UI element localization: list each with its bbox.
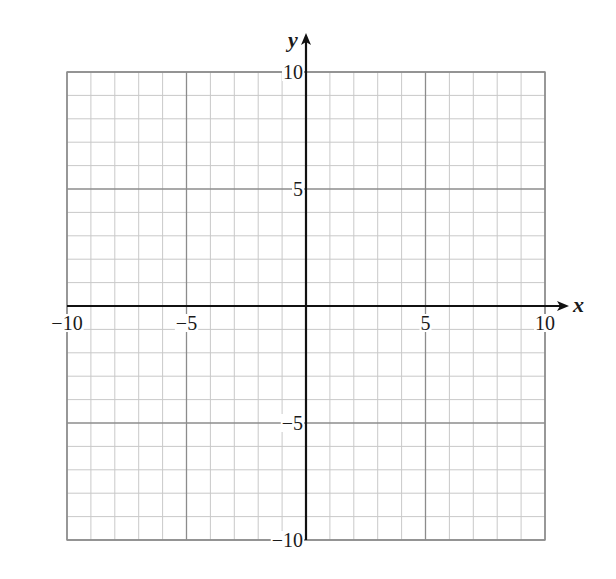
x-tick-label: −5 xyxy=(176,312,197,334)
x-axis-label: x xyxy=(572,292,584,317)
y-tick-label: 5 xyxy=(293,178,303,200)
x-tick-label: −10 xyxy=(51,312,82,334)
y-tick-label: 10 xyxy=(283,61,303,83)
coordinate-grid-chart: −10−5510105−5−10 x y xyxy=(0,0,616,579)
y-tick-label: −5 xyxy=(282,412,303,434)
x-tick-label: 5 xyxy=(421,312,431,334)
y-tick-label: −10 xyxy=(272,529,303,551)
x-tick-label: 10 xyxy=(535,312,555,334)
chart-background xyxy=(0,0,616,579)
